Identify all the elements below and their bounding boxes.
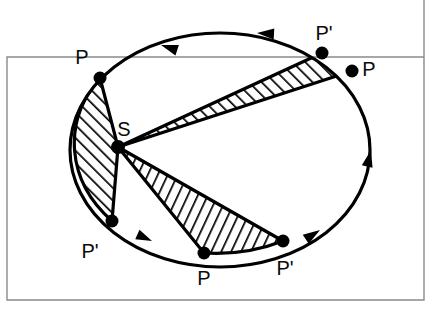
dot-p-upper-left — [94, 72, 107, 85]
sector-left — [74, 78, 118, 221]
label-p-prime-upper-right: P' — [315, 22, 332, 44]
label-p-upper-right: P — [362, 58, 375, 80]
label-p-prime-lower-right: P' — [276, 257, 293, 279]
label-p-upper-left: P — [75, 46, 88, 68]
arrow-bottom-left-icon — [135, 230, 154, 246]
kepler-second-law-figure: S P P' P P' P P' — [0, 0, 445, 317]
dot-p-upper-right — [346, 65, 359, 78]
figure-page: S P P' P P' P P' — [0, 0, 445, 317]
label-focus-s: S — [117, 118, 130, 140]
sector-upper-right — [118, 53, 352, 147]
label-p-prime-lower-left: P' — [81, 240, 98, 262]
dot-p-lower-middle — [198, 247, 211, 260]
dot-p-prime-lower-left — [106, 215, 119, 228]
dot-p-prime-lower-right — [277, 235, 290, 248]
dot-focus-s — [111, 140, 125, 154]
label-p-lower-middle: P — [197, 267, 210, 289]
dot-p-prime-upper-right — [316, 47, 329, 60]
